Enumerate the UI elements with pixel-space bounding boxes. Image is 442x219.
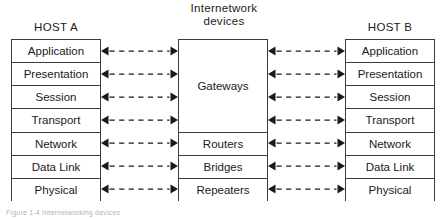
connection-arrow-right-3: [268, 91, 345, 103]
osi-internetworking-figure: HOST A Internetwork devices HOST B Appli…: [0, 0, 442, 219]
connection-arrow-right-1: [268, 45, 345, 57]
internetwork-device-stack: Gateways Routers Bridges Repeaters: [178, 39, 268, 201]
host-a-layer-stack: Application Presentation Session Transpo…: [11, 39, 101, 201]
figure-caption: Figure 1-4 Internetworking devices: [6, 209, 120, 216]
host-b-layer-stack: Application Presentation Session Transpo…: [345, 39, 435, 201]
host-a-layer-presentation: Presentation: [12, 63, 100, 86]
host-a-layer-application: Application: [12, 40, 100, 63]
connection-arrow-left-3: [101, 91, 178, 103]
connection-arrow-right-5: [268, 137, 345, 149]
host-b-layer-presentation: Presentation: [346, 63, 434, 86]
connection-arrow-left-1: [101, 45, 178, 57]
connection-arrow-left-2: [101, 68, 178, 80]
connection-arrow-left-5: [101, 137, 178, 149]
connection-arrow-right-4: [268, 114, 345, 126]
host-b-layer-network: Network: [346, 133, 434, 156]
connection-arrow-left-7: [101, 183, 178, 195]
host-b-layer-session: Session: [346, 86, 434, 109]
device-gateways: Gateways: [179, 40, 267, 133]
internetwork-devices-header-line2: devices: [165, 15, 283, 28]
device-routers: Routers: [179, 133, 267, 156]
host-b-header: HOST B: [345, 21, 435, 33]
connection-arrow-left-4: [101, 114, 178, 126]
connection-arrow-left-6: [101, 160, 178, 172]
host-b-layer-application: Application: [346, 40, 434, 63]
connection-arrow-right-6: [268, 160, 345, 172]
host-a-layer-data-link: Data Link: [12, 156, 100, 179]
host-a-layer-session: Session: [12, 86, 100, 109]
connection-arrow-right-2: [268, 68, 345, 80]
device-repeaters: Repeaters: [179, 179, 267, 202]
device-bridges: Bridges: [179, 156, 267, 179]
host-b-layer-transport: Transport: [346, 109, 434, 132]
host-b-layer-data-link: Data Link: [346, 156, 434, 179]
host-a-layer-network: Network: [12, 133, 100, 156]
internetwork-devices-header: Internetwork devices: [165, 2, 283, 28]
connection-arrow-right-7: [268, 183, 345, 195]
host-a-layer-physical: Physical: [12, 179, 100, 202]
host-a-header: HOST A: [11, 21, 101, 33]
host-a-layer-transport: Transport: [12, 109, 100, 132]
internetwork-devices-header-line1: Internetwork: [165, 2, 283, 15]
host-b-layer-physical: Physical: [346, 179, 434, 202]
